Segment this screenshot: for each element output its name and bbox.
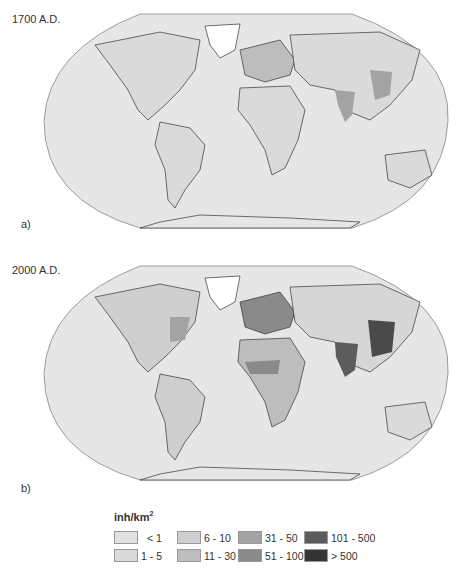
legend-item: < 1	[114, 530, 162, 545]
legend-swatch	[238, 531, 262, 544]
legend-swatch	[114, 531, 138, 544]
legend-title: inh/km2	[114, 510, 153, 523]
legend: inh/km2 < 1 1 - 5 6 - 10 11 - 30 31 - 50…	[114, 510, 414, 566]
legend-item: > 500	[304, 548, 358, 563]
panel-b-letter: b)	[21, 482, 31, 494]
legend-swatch	[238, 549, 262, 562]
legend-item: 51 - 100	[238, 548, 304, 563]
legend-item: 1 - 5	[114, 548, 162, 563]
legend-item: 11 - 30	[177, 548, 236, 563]
legend-item: 31 - 50	[238, 530, 298, 545]
panel-a-letter: a)	[21, 218, 31, 230]
legend-swatch	[114, 549, 138, 562]
world-map-1700	[40, 10, 452, 232]
legend-swatch	[304, 531, 328, 544]
legend-item: 6 - 10	[177, 530, 231, 545]
legend-swatch	[177, 549, 201, 562]
legend-item: 101 - 500	[304, 530, 375, 545]
legend-swatch	[177, 531, 201, 544]
world-map-2000	[40, 262, 452, 484]
legend-swatch	[304, 549, 328, 562]
